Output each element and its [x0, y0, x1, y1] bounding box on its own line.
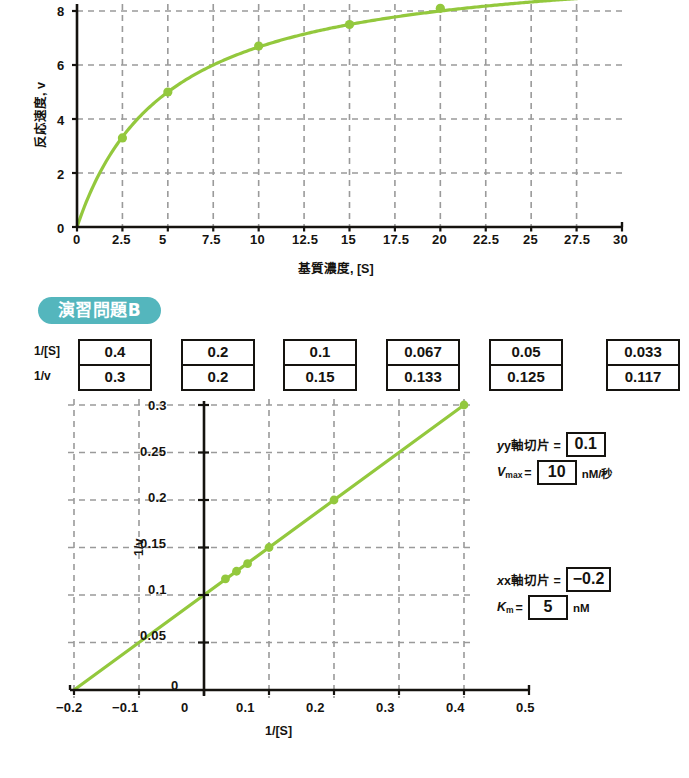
vmax-symbol: Vmax [497, 465, 522, 480]
mm-ytick-8: 8 [57, 4, 64, 19]
km-unit: nM [573, 602, 590, 614]
answer-box-inv-v-3[interactable]: 0.15 [283, 364, 357, 391]
answer-box-inv-s-3[interactable]: 0.1 [283, 339, 357, 366]
mm-x-axis-title: 基質濃度, [S] [298, 258, 374, 277]
lb-ytick-0p1: 0.1 [148, 582, 167, 597]
mm-ytick-0: 0 [57, 221, 64, 236]
km-annotation: Km = 5 nM [497, 595, 590, 620]
lb-xtick-0p2: 0.2 [306, 700, 325, 715]
answer-box-inv-s-5[interactable]: 0.05 [489, 339, 563, 366]
vmax-annotation: Vmax = 10 nM/秒 [497, 460, 612, 485]
mm-xtick-5: 5 [159, 232, 166, 247]
vmax-unit: nM/秒 [582, 465, 613, 481]
y-intercept-value-box[interactable]: 0.1 [566, 432, 606, 457]
mm-xtick-0: 0 [73, 232, 80, 247]
answer-box-inv-v-5[interactable]: 0.125 [489, 364, 563, 391]
answer-box-inv-v-6[interactable]: 0.117 [606, 364, 680, 391]
lb-xtick-m0p2: −0.2 [56, 700, 82, 715]
lb-ytick-0p2: 0.2 [148, 490, 167, 505]
mm-xtick-10: 10 [250, 232, 265, 247]
answer-box-inv-v-2[interactable]: 0.2 [181, 364, 255, 391]
km-equals: = [516, 601, 523, 615]
mm-xtick-20: 20 [432, 232, 447, 247]
row-label-inv-s: 1/[S] [34, 344, 60, 358]
mm-xtick-30: 30 [613, 232, 628, 247]
km-symbol: Km [497, 600, 514, 615]
lb-xtick-0p5: 0.5 [516, 700, 535, 715]
km-value-box[interactable]: 5 [528, 595, 568, 620]
answer-box-inv-s-2[interactable]: 0.2 [181, 339, 255, 366]
lb-ytick-0: 0 [171, 678, 178, 693]
vmax-equals: = [524, 466, 531, 480]
lb-x-axis-title: 1/[S] [265, 724, 292, 738]
answer-box-inv-s-6[interactable]: 0.033 [606, 339, 680, 366]
answer-box-inv-v-4[interactable]: 0.133 [386, 364, 460, 391]
lb-ytick-0p3: 0.3 [148, 398, 167, 413]
mm-ytick-6: 6 [57, 58, 64, 73]
mm-xtick-12p5: 12.5 [292, 232, 318, 247]
mm-xtick-2p5: 2.5 [112, 232, 131, 247]
mm-xtick-17p5: 17.5 [383, 232, 409, 247]
x-intercept-value-box[interactable]: −0.2 [566, 567, 612, 592]
mm-y-axis-title: 反応速度, v [30, 82, 49, 148]
mm-xtick-15: 15 [341, 232, 356, 247]
figure-root: 8 6 4 2 0 反応速度, v 0 2.5 5 7.5 10 12.5 15… [0, 0, 689, 778]
mm-xtick-27p5: 27.5 [564, 232, 590, 247]
mm-xtick-7p5: 7.5 [202, 232, 221, 247]
lb-ytick-0p05: 0.05 [140, 628, 166, 643]
y-intercept-label: yy軸切片 = [497, 435, 561, 454]
lb-xtick-0p3: 0.3 [376, 700, 395, 715]
vmax-value-box[interactable]: 10 [537, 460, 577, 485]
lb-ytick-0p25: 0.25 [140, 444, 166, 459]
lb-y-axis-title: 1/v [132, 539, 146, 556]
exercise-badge: 演習問題B [38, 297, 161, 324]
lb-xtick-0p4: 0.4 [446, 700, 465, 715]
x-intercept-annotation: xx軸切片 = −0.2 [497, 567, 614, 592]
y-intercept-annotation: yy軸切片 = 0.1 [497, 432, 609, 457]
answer-box-inv-v-1[interactable]: 0.3 [78, 364, 152, 391]
michaelis-menten-plot [0, 0, 689, 240]
lb-xtick-m0p1: −0.1 [112, 700, 138, 715]
exercise-badge-label: 演習問題B [38, 297, 161, 324]
lb-xtick-0p1: 0.1 [236, 700, 255, 715]
mm-xtick-25: 25 [523, 232, 538, 247]
mm-ytick-2: 2 [57, 167, 64, 182]
answer-box-inv-s-1[interactable]: 0.4 [78, 339, 152, 366]
x-intercept-label: xx軸切片 = [497, 570, 561, 589]
mm-xtick-22p5: 22.5 [473, 232, 499, 247]
answer-box-inv-s-4[interactable]: 0.067 [386, 339, 460, 366]
mm-ytick-4: 4 [57, 113, 64, 128]
row-label-inv-v: 1/v [34, 369, 51, 383]
lb-xtick-0: 0 [181, 700, 188, 715]
